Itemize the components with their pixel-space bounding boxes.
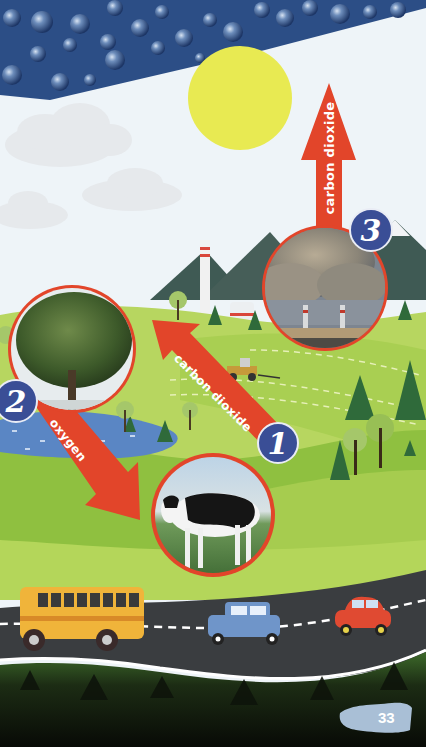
arrow-3-label: carbon dioxide [322, 102, 337, 215]
badge-3: 3 [349, 208, 393, 252]
page-number: 33 [378, 709, 395, 726]
badge-2-number: 2 [6, 384, 27, 419]
badge-3-number: 3 [361, 213, 382, 248]
badge-1: 1 [257, 422, 299, 464]
badge-1-number: 1 [268, 426, 289, 461]
illustrated-page: carbon dioxide carbon dioxide oxygen 1 2… [0, 0, 426, 747]
sun [188, 46, 292, 150]
scene-illustration [0, 0, 426, 747]
